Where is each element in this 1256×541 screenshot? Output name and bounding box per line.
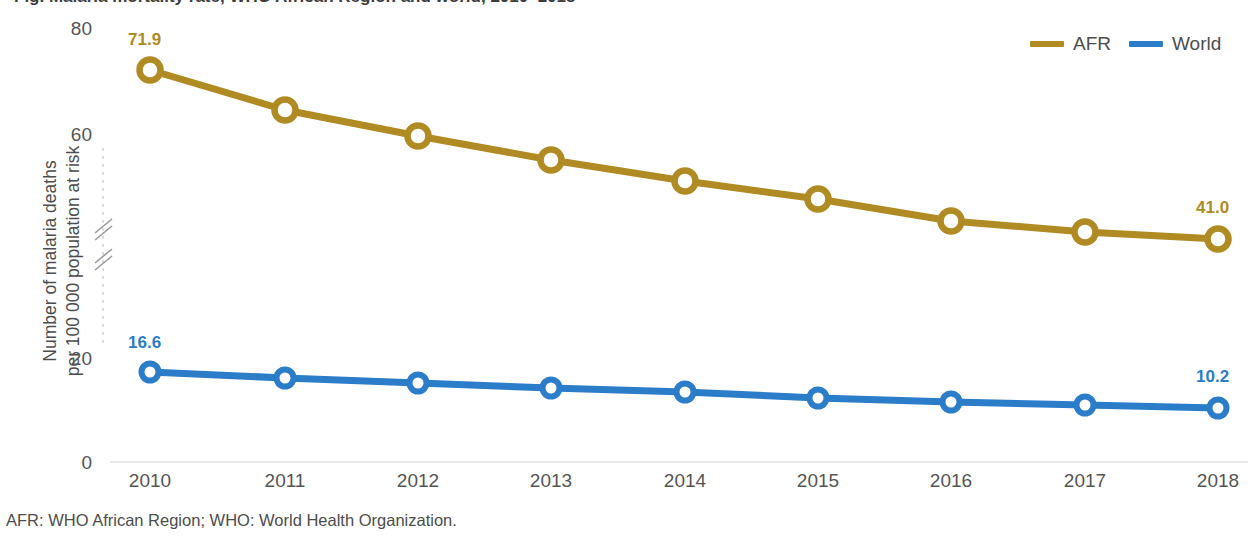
plot-canvas <box>0 0 1256 541</box>
axis-break-indicator <box>95 148 112 345</box>
x-tick-2016: 2016 <box>896 470 1006 492</box>
series-world <box>142 364 1227 417</box>
series-afr-markers <box>140 60 1229 250</box>
legend-label-world: World <box>1172 33 1221 55</box>
legend-item-afr[interactable]: AFR <box>1030 33 1111 55</box>
chart-legend: AFR World <box>1030 33 1221 55</box>
x-tick-2011: 2011 <box>230 470 340 492</box>
legend-item-world[interactable]: World <box>1129 33 1221 55</box>
x-tick-2010: 2010 <box>95 470 205 492</box>
x-tick-2018: 2018 <box>1163 470 1256 492</box>
legend-swatch-afr-icon <box>1030 41 1064 47</box>
figure-footnote: AFR: WHO African Region; WHO: World Heal… <box>6 511 457 530</box>
x-tick-2013: 2013 <box>496 470 606 492</box>
x-tick-2015: 2015 <box>763 470 873 492</box>
data-label-afr-2018: 41.0 <box>1196 198 1229 218</box>
legend-swatch-world-icon <box>1129 41 1163 47</box>
data-label-world-2010: 16.6 <box>128 333 161 353</box>
line-chart: Number of malaria deaths per 100 000 pop… <box>0 0 1256 541</box>
legend-label-afr: AFR <box>1073 33 1111 55</box>
data-label-afr-2010: 71.9 <box>128 30 161 50</box>
x-tick-2014: 2014 <box>630 470 740 492</box>
series-afr <box>140 60 1229 250</box>
x-axis-ticks: 2010 2011 2012 2013 2014 2015 2016 2017 … <box>0 470 1256 510</box>
data-label-world-2018: 10.2 <box>1196 367 1229 387</box>
x-tick-2012: 2012 <box>363 470 473 492</box>
series-world-markers <box>142 364 1227 417</box>
x-tick-2017: 2017 <box>1030 470 1140 492</box>
